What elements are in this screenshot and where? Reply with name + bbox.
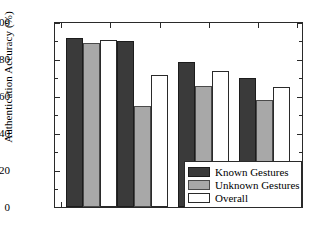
legend-item-overall: Overall xyxy=(188,191,297,204)
y-tick-right-80 xyxy=(297,60,302,61)
y-tick-label-20: 20 xyxy=(0,165,10,175)
y-tick-minor-30 xyxy=(55,152,58,153)
y-tick-right-minor-50 xyxy=(299,115,302,116)
legend-swatch-overall-icon xyxy=(188,193,210,203)
x-tick-top-4 xyxy=(258,23,259,28)
y-tick-80 xyxy=(55,60,60,61)
legend-label-known: Known Gestures xyxy=(215,166,289,178)
y-tick-label-0: 0 xyxy=(0,202,10,212)
x-tick-top-2 xyxy=(160,23,161,28)
plot-area: Known Gestures Unknown Gestures Overall xyxy=(54,22,303,208)
y-tick-0 xyxy=(55,207,60,208)
bar-chart-figure: Authentication Accuracy (%) 100 80 60 40… xyxy=(0,0,320,226)
y-tick-right-minor-70 xyxy=(299,78,302,79)
x-tick-top-0 xyxy=(61,23,62,28)
chart-legend: Known Gestures Unknown Gestures Overall xyxy=(184,161,302,208)
bar-group1-known xyxy=(66,38,83,207)
legend-swatch-known-icon xyxy=(188,167,210,177)
legend-item-known: Known Gestures xyxy=(188,165,297,178)
x-tick-top-1 xyxy=(110,23,111,28)
legend-label-overall: Overall xyxy=(215,192,248,204)
y-tick-label-80: 80 xyxy=(0,54,10,64)
y-tick-right-60 xyxy=(297,97,302,98)
y-tick-label-60: 60 xyxy=(0,91,10,101)
y-tick-60 xyxy=(55,97,60,98)
y-tick-minor-10 xyxy=(55,189,58,190)
y-tick-label-100: 100 xyxy=(0,17,10,27)
legend-label-unknown: Unknown Gestures xyxy=(215,179,300,191)
x-tick-bottom-0 xyxy=(61,202,62,207)
bar-group1-unknown xyxy=(83,43,100,207)
y-tick-40 xyxy=(55,134,60,135)
bar-group2-known xyxy=(117,41,134,207)
bar-group2-unknown xyxy=(134,106,151,207)
bar-group2-overall xyxy=(151,75,168,207)
y-tick-minor-50 xyxy=(55,115,58,116)
y-tick-minor-90 xyxy=(55,41,58,42)
x-tick-top-5 xyxy=(297,23,298,28)
legend-swatch-unknown-icon xyxy=(188,180,210,190)
legend-item-unknown: Unknown Gestures xyxy=(188,178,297,191)
y-tick-right-40 xyxy=(297,134,302,135)
y-tick-right-minor-90 xyxy=(299,41,302,42)
bar-group1-overall xyxy=(100,40,117,207)
y-tick-100 xyxy=(55,23,60,24)
y-tick-minor-70 xyxy=(55,78,58,79)
y-tick-right-minor-30 xyxy=(299,152,302,153)
x-tick-top-3 xyxy=(209,23,210,28)
y-tick-20 xyxy=(55,171,60,172)
y-tick-label-40: 40 xyxy=(0,128,10,138)
